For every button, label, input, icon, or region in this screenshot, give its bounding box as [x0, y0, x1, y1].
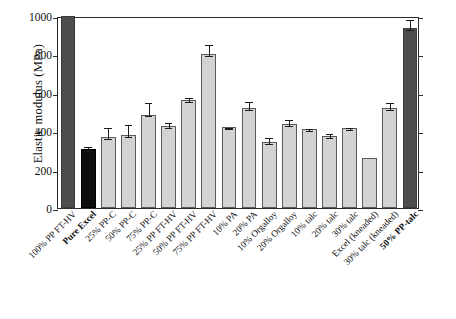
y-axis-tick-labels: 02004006008001000 [8, 17, 52, 209]
x-axis-tick-labels: 100% PP FT-HVPure Excel25% PP-C50% PP-C7… [0, 209, 456, 319]
bar [262, 142, 277, 208]
bar [342, 128, 357, 208]
error-bar-cap-top [185, 98, 193, 99]
bar [322, 136, 337, 208]
error-bar-cap-bottom [104, 139, 112, 140]
error-bar [390, 103, 391, 110]
error-bar-cap-top [104, 128, 112, 129]
bar [242, 108, 257, 208]
error-bar-cap-bottom [165, 128, 173, 129]
bar [161, 126, 176, 208]
error-bar [209, 45, 210, 57]
error-bar-cap-bottom [84, 151, 92, 152]
error-bar-cap-bottom [406, 30, 414, 31]
error-bar-cap-top [84, 147, 92, 148]
error-bar-cap-top [386, 103, 394, 104]
y-axis-tick-label: 1000 [10, 11, 52, 23]
error-bar-cap-bottom [326, 138, 334, 139]
error-bar [108, 128, 109, 139]
bar [382, 108, 397, 208]
y-axis-tick-right [418, 56, 423, 57]
y-axis-tick-right [418, 18, 423, 19]
y-axis-tick-label: 800 [10, 49, 52, 61]
y-axis-tick [53, 56, 58, 57]
chart-figure: Elastic modulus (MPa) 02004006008001000 … [0, 0, 456, 319]
bar [282, 124, 297, 208]
error-bar-cap-bottom [205, 56, 213, 57]
y-axis-tick-label: 400 [10, 126, 52, 138]
error-bar-cap-bottom [225, 129, 233, 130]
y-axis-tick-label: 200 [10, 165, 52, 177]
bar [61, 16, 76, 208]
error-bar-cap-top [245, 102, 253, 103]
error-bar-cap-bottom [285, 126, 293, 127]
error-bar-cap-top [145, 103, 153, 104]
error-bar-cap-bottom [306, 131, 314, 132]
bar [181, 100, 196, 208]
y-axis-tick [53, 18, 58, 19]
y-axis-tick [53, 95, 58, 96]
error-bar-cap-bottom [245, 110, 253, 111]
bar [121, 135, 136, 208]
error-bar [149, 103, 150, 116]
error-bar-cap-top [165, 123, 173, 124]
bar [403, 28, 418, 208]
plot-area [57, 17, 419, 209]
error-bar [128, 125, 129, 137]
bar [81, 149, 96, 208]
error-bar-cap-bottom [346, 130, 354, 131]
error-bar [249, 102, 250, 111]
error-bar-cap-top [205, 45, 213, 46]
error-bar-cap-top [285, 120, 293, 121]
y-axis-tick-right [418, 133, 423, 134]
error-bar-cap-bottom [386, 110, 394, 111]
error-bar-cap-top [265, 138, 273, 139]
y-axis-tick-right [418, 95, 423, 96]
bar [222, 127, 237, 208]
error-bar-cap-bottom [265, 144, 273, 145]
error-bar-cap-top [346, 128, 354, 129]
error-bar [410, 20, 411, 31]
bar [362, 158, 377, 208]
error-bar-cap-bottom [185, 102, 193, 103]
error-bar-cap-top [125, 125, 133, 126]
error-bar-cap-bottom [125, 137, 133, 138]
error-bar-cap-top [406, 20, 414, 21]
bar [101, 137, 116, 208]
bar [141, 115, 156, 209]
error-bar-cap-top [326, 134, 334, 135]
y-axis-tick-right [418, 172, 423, 173]
y-axis-tick-label: 600 [10, 88, 52, 100]
bar [201, 54, 216, 208]
bar [302, 129, 317, 208]
error-bar-cap-bottom [145, 116, 153, 117]
y-axis-tick [53, 133, 58, 134]
y-axis-tick [53, 172, 58, 173]
